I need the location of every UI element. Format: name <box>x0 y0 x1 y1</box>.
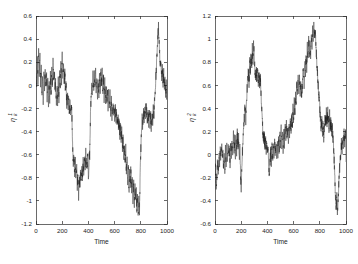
axis-frame <box>215 16 346 224</box>
x-tick-label: 0 <box>213 227 217 234</box>
y-axis-title: ηk2 <box>187 113 198 122</box>
y-tick-label: -0.8 <box>21 174 32 181</box>
y-tick-label: -0.6 <box>200 220 211 227</box>
y-tick-label: -0.4 <box>21 128 32 135</box>
y-axis-title-symbol: η <box>187 118 196 122</box>
chart-panel-left: 02004006008001000-1.2-1-0.8-0.6-0.4-0.20… <box>0 0 179 264</box>
y-tick-label: 1.2 <box>202 12 211 19</box>
y-tick-label: -0.4 <box>200 197 211 204</box>
y-tick-label: 0 <box>208 151 212 158</box>
y-axis-title-subscript: k <box>13 113 18 116</box>
x-axis-title: Time <box>273 238 288 245</box>
y-tick-label: 0.6 <box>202 82 211 89</box>
data-series-line <box>215 22 346 215</box>
y-tick-label: 0.2 <box>23 58 32 65</box>
y-tick-label: 0.8 <box>202 58 211 65</box>
chart-panel-right: 02004006008001000-0.6-0.4-0.200.20.40.60… <box>179 0 358 264</box>
x-tick-label: 800 <box>136 227 147 234</box>
x-tick-label: 200 <box>236 227 247 234</box>
y-axis-title-superscript: 2 <box>187 113 192 117</box>
x-tick-label: 600 <box>109 227 120 234</box>
x-tick-label: 400 <box>262 227 273 234</box>
y-axis-title-subscript: k <box>192 113 197 116</box>
y-tick-label: -0.2 <box>21 105 32 112</box>
y-tick-label: -0.6 <box>21 151 32 158</box>
data-series-line <box>36 22 167 216</box>
x-tick-label: 400 <box>83 227 94 234</box>
y-tick-label: -1 <box>26 197 32 204</box>
y-axis-title-symbol: η <box>8 118 17 122</box>
x-tick-label: 1000 <box>160 227 174 234</box>
plot-svg: 02004006008001000-1.2-1-0.8-0.6-0.4-0.20… <box>0 0 179 264</box>
y-axis-title: ηk1 <box>8 113 19 122</box>
y-tick-label: 0 <box>29 82 33 89</box>
x-tick-label: 1000 <box>339 227 353 234</box>
y-tick-label: 0.6 <box>23 12 32 19</box>
x-tick-label: 200 <box>57 227 68 234</box>
y-tick-label: 0.2 <box>202 128 211 135</box>
x-tick-label: 800 <box>315 227 326 234</box>
figure-canvas: 02004006008001000-1.2-1-0.8-0.6-0.4-0.20… <box>0 0 358 264</box>
y-tick-label: 0.4 <box>23 35 32 42</box>
y-axis-title-superscript: 1 <box>8 113 13 116</box>
y-tick-label: -1.2 <box>21 220 32 227</box>
plot-svg: 02004006008001000-0.6-0.4-0.200.20.40.60… <box>179 0 358 264</box>
x-tick-label: 600 <box>288 227 299 234</box>
y-tick-label: -0.2 <box>200 174 211 181</box>
y-tick-label: 0.4 <box>202 105 211 112</box>
x-axis-title: Time <box>94 238 109 245</box>
x-tick-label: 0 <box>34 227 38 234</box>
y-tick-label: 1 <box>208 35 212 42</box>
